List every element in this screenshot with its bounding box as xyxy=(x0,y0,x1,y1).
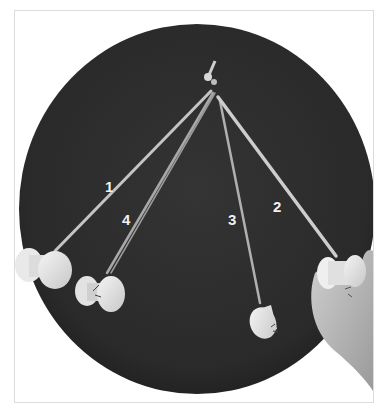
photo-frame: 1 4 3 2 xyxy=(14,10,374,403)
strand-label-3: 3 xyxy=(228,212,236,227)
strand-label-4: 4 xyxy=(122,212,130,227)
strand-label-1: 1 xyxy=(105,179,113,194)
braiding-disk-photo xyxy=(15,11,373,402)
strand-label-2: 2 xyxy=(273,199,281,214)
braiding-disk xyxy=(19,24,373,394)
